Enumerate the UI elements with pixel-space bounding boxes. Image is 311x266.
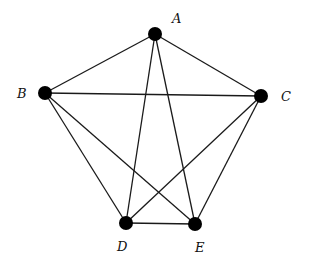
edge-b-c [45,93,261,96]
node-label-a: A [171,11,181,26]
node-label-b: B [16,86,27,101]
graph-diagram: ABCDE [0,0,311,266]
node-label-e: E [194,240,205,255]
edge-a-c [155,34,261,96]
edge-d-e [126,223,195,224]
node-label-c: C [281,89,291,104]
edge-b-e [45,93,195,224]
edge-a-e [155,34,195,224]
node-e [188,217,202,231]
edge-c-d [126,96,261,223]
node-label-d: D [116,239,128,254]
edge-a-b [45,34,155,93]
node-a [148,27,162,41]
edge-b-d [45,93,126,223]
edge-a-d [126,34,155,223]
nodes [38,27,268,231]
edges [45,34,261,224]
node-b [38,86,52,100]
node-d [119,216,133,230]
edge-c-e [195,96,261,224]
node-c [254,89,268,103]
